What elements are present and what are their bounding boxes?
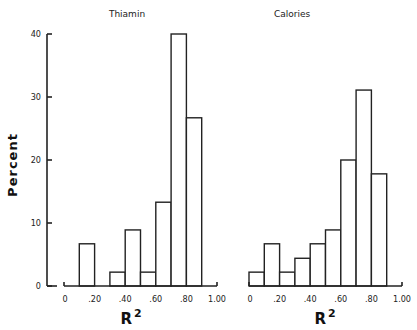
histogram-bar	[141, 272, 156, 286]
thiamin-bars	[79, 34, 201, 286]
x-tick-label: .60	[149, 294, 162, 304]
histogram-bar	[326, 230, 341, 286]
x-tick-label: .20	[273, 294, 286, 304]
thiamin-x-label: R2	[120, 307, 141, 328]
histogram-bar	[264, 244, 279, 286]
calories-x-label: R2	[314, 307, 335, 328]
calories-title: Calories	[274, 9, 311, 19]
histogram-bar	[356, 90, 371, 286]
calories-bars	[249, 90, 387, 286]
y-tick-label: 30	[31, 92, 41, 102]
histogram-figure: Percent Thiamin 010203040 0.20.40.60.801…	[0, 0, 417, 330]
thiamin-title: Thiamin	[108, 9, 145, 19]
histogram-bar	[186, 118, 201, 286]
calories-x-axis: 0.20.40.60.801.00	[247, 282, 411, 304]
x-tick-label: 1.00	[393, 294, 411, 304]
x-tick-label: .40	[119, 294, 132, 304]
histogram-bar	[156, 202, 171, 286]
thiamin-x-axis: 0.20.40.60.801.00	[62, 282, 226, 304]
thiamin-panel: Thiamin 010203040 0.20.40.60.801.00 R2	[31, 9, 226, 328]
x-tick-label: 1.00	[208, 294, 226, 304]
x-tick-label: .80	[180, 294, 193, 304]
histogram-bar	[280, 272, 295, 286]
y-tick-label: 10	[31, 218, 41, 228]
y-axis: 010203040	[31, 29, 57, 291]
x-tick-label: .20	[88, 294, 101, 304]
histogram-bar	[371, 174, 386, 286]
x-tick-label: 0	[247, 294, 252, 304]
x-tick-label: .40	[304, 294, 317, 304]
histogram-bar	[125, 230, 140, 286]
histogram-bar	[79, 244, 94, 286]
histogram-bar	[295, 258, 310, 286]
histogram-bar	[310, 244, 325, 286]
y-tick-label: 40	[31, 29, 41, 39]
x-tick-label: 0	[62, 294, 67, 304]
calories-panel: Calories 0.20.40.60.801.00 R2	[247, 9, 411, 328]
x-tick-label: .60	[334, 294, 347, 304]
y-tick-label: 0	[36, 281, 41, 291]
x-tick-label: .80	[365, 294, 378, 304]
y-axis-label: Percent	[5, 133, 20, 197]
histogram-bar	[171, 34, 186, 286]
histogram-bar	[110, 272, 125, 286]
y-tick-label: 20	[31, 155, 41, 165]
histogram-bar	[341, 160, 356, 286]
histogram-bar	[249, 272, 264, 286]
